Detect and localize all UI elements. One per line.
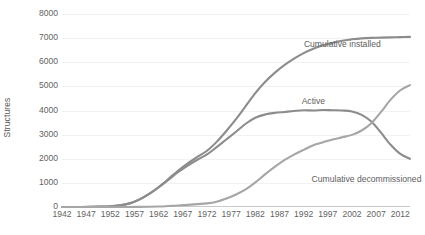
y-axis-tick-label: 6000 xyxy=(2,57,58,66)
x-axis-tick-label: 1957 xyxy=(125,209,144,219)
x-axis-tick-label: 1997 xyxy=(318,209,337,219)
x-axis-tick-label: 1977 xyxy=(222,209,241,219)
series-line xyxy=(62,110,410,207)
y-axis-tick-label: 1000 xyxy=(2,178,58,187)
x-axis-tick-label: 1972 xyxy=(197,209,216,219)
y-axis-tick-label: 8000 xyxy=(2,9,58,18)
series-line xyxy=(62,85,410,207)
x-axis-tick-label: 1942 xyxy=(52,209,71,219)
y-axis-tick-label: 2000 xyxy=(2,154,58,163)
x-axis-tick-label: 1987 xyxy=(270,209,289,219)
x-axis-tick-label: 1992 xyxy=(294,209,313,219)
series-label: Active xyxy=(302,96,325,106)
x-axis-tick-label: 1967 xyxy=(173,209,192,219)
x-axis-tick-label: 1962 xyxy=(149,209,168,219)
y-axis-tick-label: 3000 xyxy=(2,130,58,139)
x-axis-tick-label: 1982 xyxy=(246,209,265,219)
y-axis-tick-label: 5000 xyxy=(2,81,58,90)
x-axis-tick-label: 2007 xyxy=(367,209,386,219)
x-axis-tick-labels: 1942194719521957196219671972197719821987… xyxy=(0,209,425,225)
x-axis-tick-label: 1952 xyxy=(101,209,120,219)
x-axis-tick-label: 2012 xyxy=(391,209,410,219)
line-chart: Structures 01000200030004000500060007000… xyxy=(0,0,425,235)
x-axis-tick-label: 2002 xyxy=(342,209,361,219)
x-axis-tick-label: 1947 xyxy=(77,209,96,219)
series-label: Cumulative decommissioned xyxy=(312,174,422,184)
series-label: Cumulative installed xyxy=(304,39,381,49)
y-axis-tick-labels: 010002000300040005000600070008000 xyxy=(0,0,58,235)
y-axis-tick-label: 4000 xyxy=(2,106,58,115)
y-axis-tick-label: 7000 xyxy=(2,33,58,42)
